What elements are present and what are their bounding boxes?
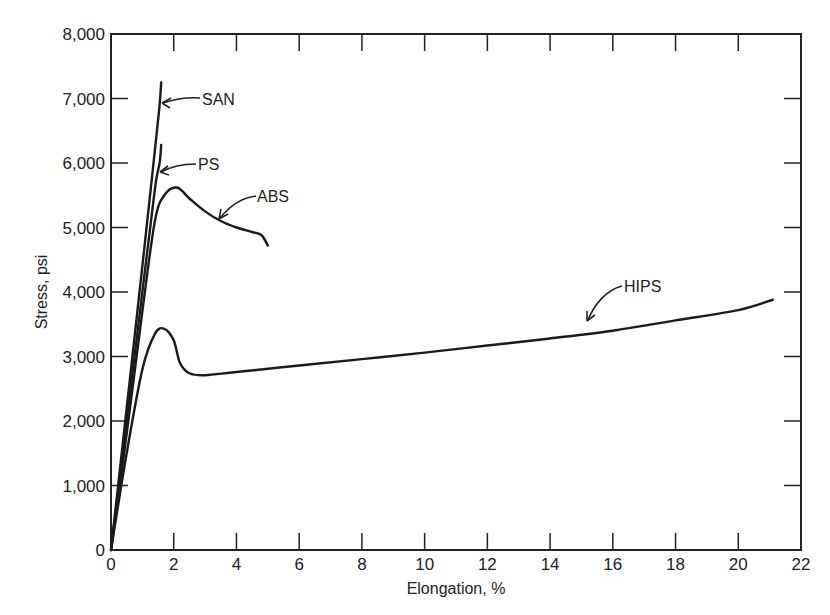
- label-hips: HIPS: [624, 278, 661, 295]
- x-tick-label: 14: [541, 555, 560, 574]
- annotation-san: SAN: [162, 91, 235, 108]
- x-axis-title: Elongation, %: [407, 580, 506, 597]
- x-tick-label: 6: [294, 555, 303, 574]
- y-tick-label: 2,000: [62, 412, 105, 431]
- y-axis-ticks: 01,0002,0003,0004,0005,0006,0007,0008,00…: [62, 25, 801, 560]
- x-tick-label: 8: [357, 555, 366, 574]
- y-axis-title: Stress, psi: [33, 255, 50, 330]
- annotation-abs: ABS: [219, 188, 289, 219]
- x-tick-label: 22: [792, 555, 811, 574]
- curve-abs: [111, 187, 268, 550]
- data-curves: [111, 82, 773, 550]
- x-axis-ticks: 0246810121416182022: [106, 34, 810, 574]
- curve-hips: [111, 300, 773, 550]
- x-tick-label: 4: [232, 555, 241, 574]
- y-tick-label: 3,000: [62, 348, 105, 367]
- plot-frame: [111, 34, 801, 550]
- x-tick-label: 0: [106, 555, 115, 574]
- y-tick-label: 7,000: [62, 90, 105, 109]
- x-tick-label: 10: [415, 555, 434, 574]
- y-tick-label: 5,000: [62, 219, 105, 238]
- label-abs: ABS: [257, 188, 289, 205]
- y-tick-label: 6,000: [62, 154, 105, 173]
- stress-strain-chart: 0246810121416182022 01,0002,0003,0004,00…: [0, 0, 830, 615]
- annotation-ps: PS: [160, 156, 219, 175]
- y-tick-label: 4,000: [62, 283, 105, 302]
- y-tick-label: 1,000: [62, 477, 105, 496]
- label-ps: PS: [198, 156, 219, 173]
- y-tick-label: 0: [96, 541, 105, 560]
- label-san: SAN: [202, 91, 235, 108]
- x-tick-label: 20: [729, 555, 748, 574]
- x-tick-label: 12: [478, 555, 497, 574]
- x-tick-label: 16: [603, 555, 622, 574]
- y-tick-label: 8,000: [62, 25, 105, 44]
- x-tick-label: 18: [666, 555, 685, 574]
- annotation-hips: HIPS: [587, 278, 661, 321]
- x-tick-label: 2: [169, 555, 178, 574]
